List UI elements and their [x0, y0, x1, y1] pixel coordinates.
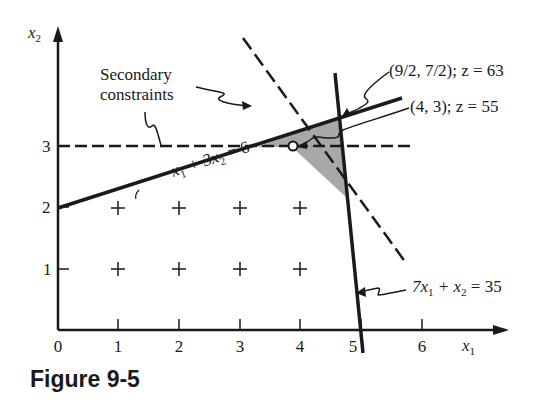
leader-secondary-horizontal: [145, 112, 161, 145]
x-tick-label: 1: [114, 338, 123, 355]
leader-secondary-diagonal: [196, 87, 250, 106]
x-axis-label: x1: [462, 337, 475, 354]
plot-canvas: [0, 0, 560, 400]
x-tick-label: 5: [349, 338, 358, 355]
x-axis-arrow-icon: [493, 325, 509, 335]
x-tick-label: 4: [296, 338, 305, 355]
leader-constraint-1: [136, 190, 139, 199]
point-4-3-marker: [289, 142, 298, 151]
y-tick-label: 3: [42, 138, 51, 155]
x-tick-label: 2: [175, 338, 184, 355]
integer-points: [111, 201, 307, 276]
x-ticks: [118, 319, 422, 330]
y-tick-label: 1: [43, 261, 52, 278]
secondary-constraints-label-line2: constraints: [100, 86, 174, 103]
x-tick-label: 6: [418, 338, 427, 355]
secondary-constraints-label-line1: Secondary: [100, 66, 172, 83]
y-axis-arrow-icon: [53, 26, 63, 42]
x-tick-label: 3: [236, 338, 245, 355]
y-ticks: [58, 146, 69, 269]
y-axis-label: x2: [28, 24, 41, 41]
x-tick-label: 0: [54, 338, 63, 355]
leader-arrow-icon: [242, 101, 252, 110]
constraint-2-label: 7x1 + x2 = 35: [412, 278, 502, 295]
point-a-label: (9/2, 7/2); z = 63: [389, 62, 504, 79]
y-tick-label: 2: [42, 199, 51, 216]
figure: x2 x1 0 1 2 3 4 5 6 1 2 3 Secondary cons…: [0, 0, 560, 400]
figure-caption: Figure 9-5: [30, 368, 140, 391]
point-b-label: (4, 3); z = 55: [410, 98, 498, 115]
